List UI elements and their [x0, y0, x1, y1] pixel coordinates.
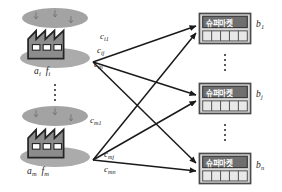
factory-m-node [20, 106, 90, 167]
edge-line-ij [93, 62, 196, 95]
factory-icon [28, 31, 64, 59]
edge-line-in [93, 62, 196, 163]
destinations-ellipsis-bottom [224, 124, 226, 144]
factory-i-node [20, 8, 90, 68]
edge-label-mj: cmj [104, 150, 114, 160]
edge-line-m1 [93, 33, 196, 160]
edge-label-i1: ci1 [100, 32, 109, 42]
transportation-problem-diagram: 슈퍼마켓 슈퍼마켓 슈퍼마켓 ci1 cij cin cm1 cmj cmn a… [0, 0, 282, 192]
edge-label-m1: cm1 [90, 116, 102, 126]
factory-m-label: amfm [27, 167, 49, 177]
diagram-canvas [0, 0, 282, 192]
edge-label-in: cin [94, 60, 103, 70]
edge-label-ij: cij [97, 46, 105, 56]
sources-ellipsis [54, 84, 56, 104]
store-j-label: bj [256, 90, 263, 100]
store-1-label: b1 [256, 20, 264, 30]
store-n-label: bn [256, 161, 264, 171]
destinations-ellipsis-top [224, 54, 226, 74]
store-sign-text-n: 슈퍼마켓 [206, 157, 233, 168]
factory-icon [28, 130, 64, 158]
factory-i-label: aifi [34, 67, 50, 77]
store-sign-text-1: 슈퍼마켓 [206, 17, 233, 28]
edge-label-mn: cmn [104, 165, 116, 175]
store-sign-text-j: 슈퍼마켓 [206, 87, 233, 98]
